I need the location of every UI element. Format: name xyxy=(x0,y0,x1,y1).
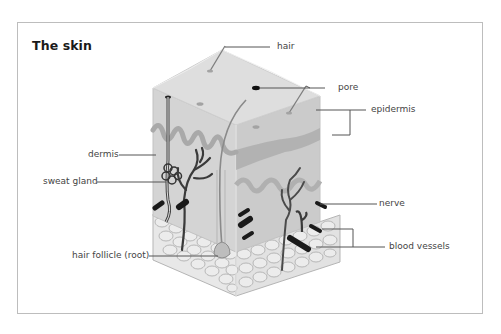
label-sweat-gland: sweat gland xyxy=(43,176,98,186)
label-blood-vessels: blood vessels xyxy=(389,241,450,251)
label-hair: hair xyxy=(277,41,294,51)
label-dermis: dermis xyxy=(88,149,119,159)
label-epidermis: epidermis xyxy=(371,104,416,114)
pore-icon xyxy=(252,86,260,90)
label-hair-follicle: hair follicle (root) xyxy=(72,250,149,260)
label-pore: pore xyxy=(338,82,358,92)
skin-cross-section-diagram xyxy=(0,0,501,334)
label-nerve: nerve xyxy=(379,198,405,208)
